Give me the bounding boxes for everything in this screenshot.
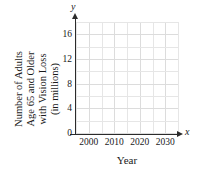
grid-line-vertical: [102, 22, 103, 133]
x-axis-letter: x: [185, 126, 189, 137]
grid-line-horizontal: [76, 47, 178, 48]
grid-line-vertical: [76, 22, 77, 133]
x-axis-line: [70, 134, 178, 135]
y-tick-label: 16: [50, 29, 72, 39]
y-axis-line: [75, 18, 76, 135]
y-tick-label: 8: [50, 79, 72, 89]
grid-line-vertical: [153, 22, 154, 133]
grid-line-vertical: [127, 22, 128, 133]
grid-line-vertical: [140, 22, 141, 133]
chart-figure: Number of Adults Age 65 and Older with V…: [0, 0, 197, 178]
grid-lines: [76, 22, 178, 133]
x-axis-tick-labels: 2000201020202030: [0, 137, 197, 149]
grid-line-horizontal: [76, 96, 178, 97]
grid-line-vertical: [114, 22, 115, 133]
x-tick-label: 2030: [148, 137, 182, 148]
grid-line-vertical: [89, 22, 90, 133]
grid-line-vertical: [178, 22, 179, 133]
x-axis-title: Year: [76, 154, 178, 166]
grid-line-horizontal: [76, 84, 178, 85]
y-tick-label: 12: [50, 54, 72, 64]
y-tick-label: 4: [50, 103, 72, 113]
y-axis-tick-labels: 0481216: [48, 0, 72, 178]
grid-line-horizontal: [76, 108, 178, 109]
grid-line-horizontal: [76, 22, 178, 23]
plot-area: [76, 22, 178, 133]
grid-line-horizontal: [76, 59, 178, 60]
grid-line-vertical: [165, 22, 166, 133]
grid-line-horizontal: [76, 34, 178, 35]
y-axis-arrow-icon: [72, 13, 78, 19]
grid-line-horizontal: [76, 71, 178, 72]
grid-line-horizontal: [76, 121, 178, 122]
